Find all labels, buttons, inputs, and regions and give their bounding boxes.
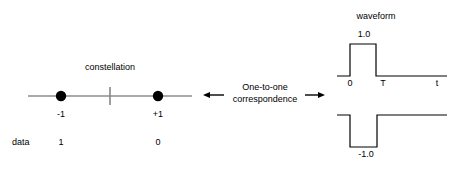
waveform-title: waveform <box>356 11 395 22</box>
constellation-group <box>28 87 192 105</box>
waveform-tick-label-t: t <box>436 78 439 89</box>
waveform-lower-trace <box>337 115 447 147</box>
data-bit-label-zero: 0 <box>155 137 160 148</box>
mapping-caption-line-2: correspondence <box>233 94 298 105</box>
waveform-lower-group <box>337 115 447 147</box>
waveform-upper-trace <box>337 44 447 76</box>
constellation-point-minus-one <box>56 91 66 101</box>
data-bit-label-one: 1 <box>58 137 63 148</box>
constellation-value-label-plus-one: +1 <box>153 109 163 120</box>
constellation-point-plus-one <box>153 91 163 101</box>
constellation-value-label-minus-one: -1 <box>57 109 65 120</box>
figure-canvas: constellation -1 +1 data 1 0 One-to-one … <box>0 0 453 170</box>
waveform-amplitude-label-negative: -1.0 <box>358 149 374 160</box>
data-row-label: data <box>12 137 30 148</box>
constellation-title: constellation <box>85 62 135 73</box>
arrow-right-icon <box>305 92 325 98</box>
waveform-tick-label-zero: 0 <box>347 78 352 89</box>
waveform-amplitude-label-positive: 1.0 <box>358 29 371 40</box>
mapping-caption-line-1: One-to-one <box>242 82 288 93</box>
arrow-left-icon <box>203 92 224 98</box>
waveform-upper-group <box>337 44 447 76</box>
waveform-tick-label-T: T <box>380 78 386 89</box>
